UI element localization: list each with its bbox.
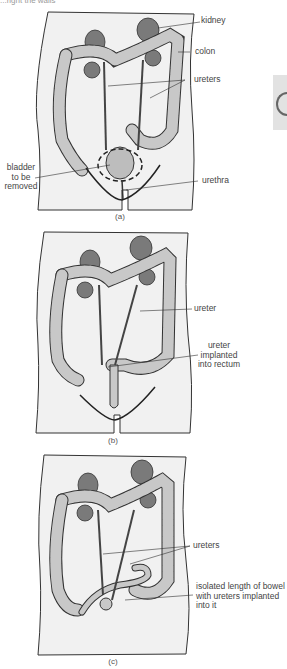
panel-b-illustration	[0, 225, 287, 438]
label-isolated-bowel: isolated length of bowel with ureters im…	[196, 582, 285, 611]
caption-b: (b)	[103, 436, 123, 445]
caption-a: (a)	[110, 212, 130, 221]
label-bladder: bladder to be removed	[4, 163, 38, 192]
label-ureter: ureter	[194, 304, 216, 314]
label-ureters-c: ureters	[193, 541, 219, 551]
panel-c: ureters isolated length of bowel with ur…	[0, 450, 287, 669]
caption-c: (c)	[103, 657, 123, 666]
label-ureters: ureters	[194, 75, 220, 85]
label-kidney: kidney	[201, 16, 226, 26]
label-ureter-implanted: ureter implanted into rectum	[196, 341, 242, 370]
panel-c-illustration	[0, 450, 287, 669]
label-colon: colon	[195, 47, 215, 57]
panel-a-illustration	[0, 0, 287, 225]
panel-b: ureter ureter implanted into rectum	[0, 225, 287, 438]
panel-a: kidney colon ureters bladder to be remov…	[0, 0, 287, 225]
label-urethra: urethra	[202, 176, 229, 186]
